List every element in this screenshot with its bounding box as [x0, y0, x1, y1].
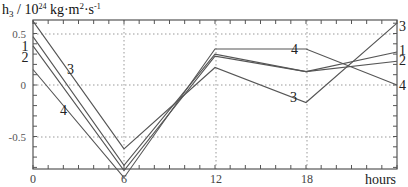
- svg-text:4: 4: [291, 42, 298, 57]
- series-lines: [33, 21, 397, 178]
- svg-text:0: 0: [21, 79, 27, 91]
- svg-text:12: 12: [210, 172, 222, 186]
- svg-text:2: 2: [22, 50, 29, 65]
- svg-text:0: 0: [30, 172, 36, 186]
- svg-text:18: 18: [301, 172, 313, 186]
- series-labels-right: 3 1 2 4: [399, 19, 406, 93]
- line-chart: h3 / 1024 kg·m2·s-1 0.5 0 -0.5 0 6 12 18…: [0, 0, 408, 187]
- svg-text:4: 4: [60, 103, 67, 118]
- plot-frame: [33, 20, 397, 169]
- axis-ticks: [33, 20, 397, 169]
- y-axis-title: h3 / 1024 kg·m2·s-1: [2, 1, 101, 19]
- svg-text:4: 4: [399, 78, 406, 93]
- grid: [33, 20, 397, 169]
- svg-text:-0.5: -0.5: [9, 131, 27, 143]
- svg-text:6: 6: [121, 172, 127, 186]
- svg-text:3: 3: [290, 90, 297, 105]
- svg-text:3: 3: [399, 19, 406, 34]
- x-tick-labels: 0 6 12 18 hours: [30, 172, 396, 187]
- svg-text:3: 3: [67, 62, 74, 77]
- x-axis-title: hours: [365, 172, 396, 187]
- svg-text:2: 2: [399, 53, 406, 68]
- series-line-2: [33, 46, 397, 171]
